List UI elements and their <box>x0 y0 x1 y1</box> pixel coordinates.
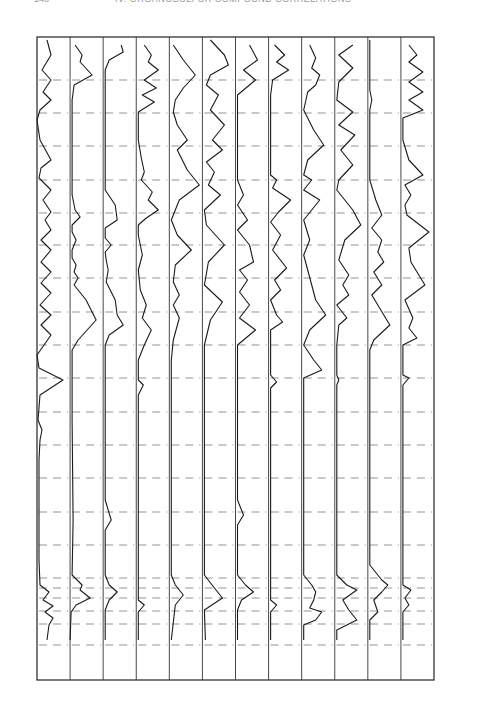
spectrum-544 <box>138 45 158 640</box>
spectrum-552 <box>403 45 429 640</box>
spectrum-541 <box>37 40 63 640</box>
spectrum-550 <box>337 45 361 640</box>
spectrum-545 <box>171 45 199 640</box>
spectrum-551 <box>370 40 390 640</box>
spectrum-546 <box>204 40 228 640</box>
ir-spectra-chart <box>0 0 480 710</box>
spectrum-547 <box>238 45 258 640</box>
spectrum-548 <box>271 45 291 640</box>
spectrum-542 <box>70 45 96 640</box>
spectrum-549 <box>304 45 326 640</box>
spectrum-543 <box>105 45 123 640</box>
